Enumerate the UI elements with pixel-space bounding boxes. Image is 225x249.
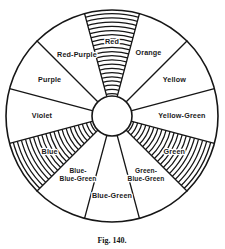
sector-label-green: Green (164, 147, 186, 156)
sector-label-purple: Purple (38, 75, 61, 84)
sector-label-blue-green: Blue-Green (92, 191, 132, 200)
color-wheel-diagram: RedRedOrangeOrangeYellowYellowYellow-Gre… (0, 0, 225, 249)
sector-label-red: Red (105, 37, 119, 46)
center-hub (92, 96, 132, 136)
sector-label-red-purple: Red-Purple (57, 50, 97, 59)
sector-label-violet: Violet (32, 111, 53, 120)
figure-caption: Fig. 140. (97, 236, 126, 245)
sector-label-blue: Blue (42, 147, 58, 156)
sector-label-orange: Orange (135, 48, 161, 57)
sector-label-yellow-green: Yellow-Green (158, 111, 205, 120)
sector-label-yellow: Yellow (163, 75, 187, 84)
color-wheel-figure: RedRedOrangeOrangeYellowYellowYellow-Gre… (0, 0, 225, 249)
